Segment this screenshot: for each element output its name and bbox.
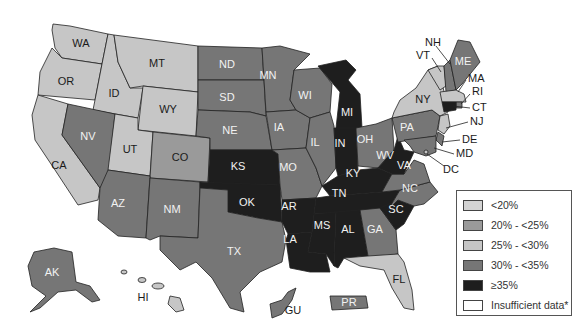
legend-label: ≥35% xyxy=(491,279,518,291)
label-mi: MI xyxy=(341,106,353,118)
state-hi xyxy=(121,270,184,312)
label-or: OR xyxy=(58,75,75,87)
label-la: LA xyxy=(283,233,297,245)
callout-md: MD xyxy=(456,147,473,159)
legend-item: <20% xyxy=(463,195,571,215)
legend-item: 30% - <35% xyxy=(463,255,571,275)
label-mt: MT xyxy=(149,57,165,69)
label-id: ID xyxy=(109,87,120,99)
legend-label: 30% - <35% xyxy=(491,259,549,271)
legend-label: Insufficient data* xyxy=(491,299,568,311)
callout-ma: MA xyxy=(468,72,485,84)
legend-swatch xyxy=(463,260,483,271)
label-nd: ND xyxy=(219,58,235,70)
label-pr: PR xyxy=(341,296,356,308)
label-il: IL xyxy=(310,136,319,148)
label-nc: NC xyxy=(402,182,418,194)
callout-nj: NJ xyxy=(470,115,483,127)
label-ca: CA xyxy=(51,159,67,171)
label-sc: SC xyxy=(388,203,403,215)
legend-swatch xyxy=(463,240,483,251)
state-nj xyxy=(438,114,450,134)
label-nm: NM xyxy=(163,203,180,215)
label-ny: NY xyxy=(415,93,431,105)
label-ks: KS xyxy=(231,160,246,172)
label-wa: WA xyxy=(72,37,90,49)
label-gu: GU xyxy=(285,304,302,316)
legend-label: <20% xyxy=(491,199,518,211)
label-me: ME xyxy=(455,55,472,67)
state-de xyxy=(436,132,444,146)
state-ak xyxy=(28,248,100,312)
label-wy: WY xyxy=(159,103,177,115)
state-ma xyxy=(440,90,466,102)
label-ok: OK xyxy=(239,196,256,208)
legend: <20% 20% - <25% 25% - <30% 30% - <35% ≥3… xyxy=(456,190,572,316)
label-mn: MN xyxy=(259,69,276,81)
legend-item: ≥35% xyxy=(463,275,571,295)
label-pa: PA xyxy=(400,121,415,133)
legend-label: 20% - <25% xyxy=(491,219,549,231)
callout-ct: CT xyxy=(472,101,487,113)
label-ut: UT xyxy=(123,143,138,155)
legend-item: Insufficient data* xyxy=(463,295,571,315)
label-ky: KY xyxy=(346,167,361,179)
callout-dc: DC xyxy=(443,163,459,175)
label-wv: WV xyxy=(376,149,394,161)
legend-swatch xyxy=(463,300,483,311)
legend-label: 25% - <30% xyxy=(491,239,549,251)
label-ak: AK xyxy=(45,266,60,278)
label-sd: SD xyxy=(219,91,234,103)
label-tn: TN xyxy=(332,187,347,199)
label-oh: OH xyxy=(357,133,374,145)
label-az: AZ xyxy=(111,197,125,209)
label-hi: HI xyxy=(138,291,149,303)
label-ga: GA xyxy=(367,223,384,235)
label-fl: FL xyxy=(393,273,406,285)
label-nv: NV xyxy=(80,130,96,142)
state-ia xyxy=(266,110,310,150)
label-tx: TX xyxy=(227,245,242,257)
label-mo: MO xyxy=(279,161,297,173)
legend-swatch xyxy=(463,220,483,231)
legend-item: 25% - <30% xyxy=(463,235,571,255)
label-wi: WI xyxy=(298,89,311,101)
callout-nh: NH xyxy=(425,36,441,48)
callout-vt: VT xyxy=(416,49,430,61)
legend-item: 20% - <25% xyxy=(463,215,571,235)
label-al: AL xyxy=(341,223,354,235)
state-ct xyxy=(442,102,456,112)
state-dc xyxy=(424,150,428,154)
label-va: VA xyxy=(397,159,412,171)
label-ne: NE xyxy=(222,124,237,136)
label-in: IN xyxy=(335,137,346,149)
callout-ri: RI xyxy=(472,85,483,97)
legend-swatch xyxy=(463,280,483,291)
label-ia: IA xyxy=(274,121,285,133)
callout-de: DE xyxy=(462,133,477,145)
label-ms: MS xyxy=(314,219,331,231)
label-co: CO xyxy=(172,151,189,163)
legend-swatch xyxy=(463,200,483,211)
label-ar: AR xyxy=(281,200,296,212)
